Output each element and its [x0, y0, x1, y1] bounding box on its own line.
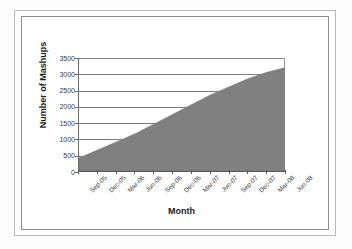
- x-axis-tick-label: Mar-06: [126, 174, 146, 194]
- x-axis-title: Month: [78, 206, 285, 216]
- y-axis-tick-label: 1500: [59, 120, 75, 127]
- x-axis-tick-mark: [97, 170, 98, 174]
- x-axis-tick-mark: [266, 170, 267, 174]
- y-axis-tick-label: 500: [63, 152, 75, 159]
- x-axis-tick-mark: [210, 170, 211, 174]
- x-axis-tick-label: Sep-07: [239, 174, 259, 194]
- x-axis-tick-label: Mar-08: [276, 174, 296, 194]
- x-axis-tick-label: Dec-07: [258, 174, 278, 194]
- y-axis-tick-label: 2000: [59, 103, 75, 110]
- x-axis-tick-label: Dec-06: [182, 174, 202, 194]
- x-axis-tick-labels: Sep-05Dec-05Mar-06Jun-06Sep-06Dec-06Mar-…: [78, 174, 285, 210]
- y-axis-tick-label: 3500: [59, 55, 75, 62]
- x-axis-tick-mark: [285, 170, 286, 174]
- x-axis-tick-label: Sep-06: [163, 174, 183, 194]
- x-axis-tick-mark: [247, 170, 248, 174]
- x-axis-tick-label: Jun-06: [144, 174, 163, 193]
- gridline: [79, 91, 285, 92]
- x-axis-tick-mark: [134, 170, 135, 174]
- x-axis-tick-label: Jun-07: [220, 174, 239, 193]
- x-axis-tick-label: Jun-08: [295, 174, 314, 193]
- x-axis-tick-mark: [191, 170, 192, 174]
- gridline: [79, 107, 285, 108]
- x-axis-tick-mark: [78, 170, 79, 174]
- y-axis-tick-labels: 0500100015002000250030003500: [39, 58, 75, 172]
- gridline: [79, 139, 285, 140]
- x-axis-tick-mark: [229, 170, 230, 174]
- x-axis-tick-label: Sep-05: [88, 174, 108, 194]
- x-axis-tick-label: Mar-07: [201, 174, 221, 194]
- chart-figure: Number of Mashups 0500100015002000250030…: [0, 0, 352, 249]
- plot-area: [78, 58, 285, 172]
- x-axis-tick-mark: [172, 170, 173, 174]
- x-axis-tick-mark: [116, 170, 117, 174]
- gridline: [79, 123, 285, 124]
- x-axis-tick-label: Dec-05: [107, 174, 127, 194]
- chart-canvas: Number of Mashups 0500100015002000250030…: [21, 16, 329, 230]
- y-axis-tick-label: 2500: [59, 87, 75, 94]
- x-axis-tick-mark: [153, 170, 154, 174]
- y-axis-tick-label: 3000: [59, 71, 75, 78]
- y-axis-tick-label: 1000: [59, 136, 75, 143]
- gridline: [79, 74, 285, 75]
- gridline: [79, 156, 285, 157]
